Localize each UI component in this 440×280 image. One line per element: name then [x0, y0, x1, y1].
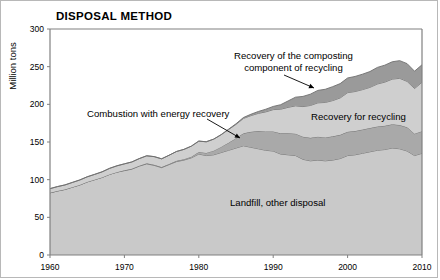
annotation-combustion: Combustion with energy recovery	[87, 108, 229, 120]
y-axis-tick: 0	[39, 250, 44, 260]
x-axis-tick: 1960	[41, 262, 60, 272]
y-axis-tick: 250	[30, 62, 44, 72]
plot-area: 0501001502002503001960197019801990200020…	[1, 1, 440, 280]
y-axis-tick: 300	[30, 24, 44, 34]
annotation-recycling: Recovery for recycling	[311, 111, 406, 123]
y-axis-tick: 100	[30, 175, 44, 185]
x-axis-tick: 1990	[264, 262, 283, 272]
annotation-composting-line1: Recovery of the composting	[234, 50, 353, 61]
y-axis-tick: 200	[30, 99, 44, 109]
annotation-composting: Recovery of the composting component of …	[234, 50, 353, 73]
x-axis-tick: 1980	[189, 262, 208, 272]
annotation-landfill: Landfill, other disposal	[230, 197, 325, 209]
x-axis-tick: 2000	[338, 262, 357, 272]
x-axis-tick: 2010	[413, 262, 432, 272]
y-axis-tick: 50	[35, 212, 45, 222]
y-axis-tick: 150	[30, 137, 44, 147]
chart-figure: DISPOSAL METHOD Million tons 05010015020…	[0, 0, 438, 278]
x-axis-tick: 1970	[115, 262, 134, 272]
annotation-composting-line2: component of recycling	[244, 62, 343, 73]
